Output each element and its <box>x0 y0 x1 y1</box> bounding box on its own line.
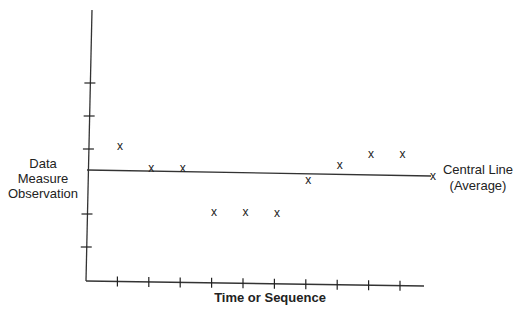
central-line-label-line: Central Line <box>439 162 517 178</box>
x-axis <box>86 281 424 286</box>
data-point-marker: x <box>180 161 186 175</box>
central-line <box>87 170 431 176</box>
y-axis-label-line: Measure <box>0 171 86 186</box>
data-point-marker: x <box>337 158 343 172</box>
data-point-marker: x <box>400 147 406 161</box>
data-point-marker: x <box>274 206 280 220</box>
data-point-marker: x <box>148 161 154 175</box>
data-point-marker: x <box>117 139 123 153</box>
central-line-label-line: (Average) <box>439 178 517 194</box>
data-point-marker: x <box>243 205 249 219</box>
central-line-label: Central Line (Average) <box>439 162 517 194</box>
data-point-marker: x <box>211 205 217 219</box>
x-axis-label: Time or Sequence <box>200 290 340 305</box>
central-line-end-marker: x <box>430 169 436 183</box>
y-axis <box>86 10 92 281</box>
y-axis-label: Data Measure Observation <box>0 156 86 201</box>
data-point-marker: x <box>305 173 311 187</box>
y-axis-label-line: Data <box>0 156 86 171</box>
data-point-marker: x <box>368 147 374 161</box>
y-axis-label-line: Observation <box>0 186 86 201</box>
data-points: xxxxxxxxxx <box>117 139 406 220</box>
